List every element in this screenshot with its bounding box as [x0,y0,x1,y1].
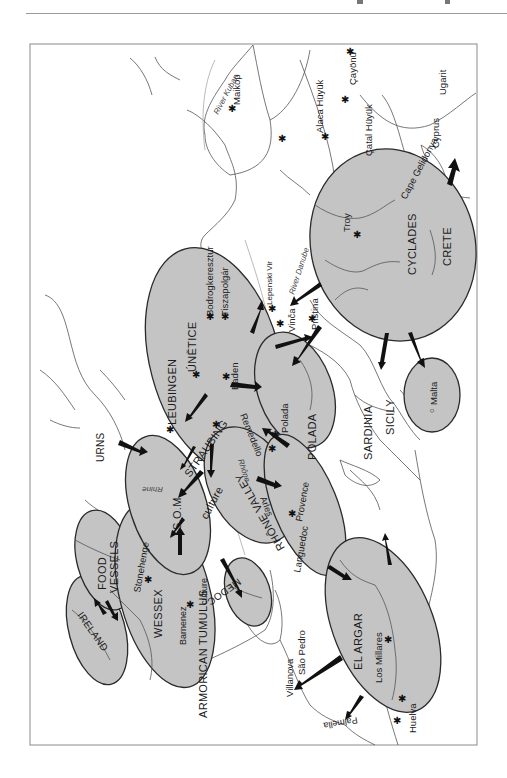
label-rhine: Rhine [142,485,163,494]
label-urns: URNS [95,432,106,462]
label-catal-huyuk: Çatal Hüyük [363,104,374,156]
label-wessex: WESSEX [152,589,164,638]
site-star-remedello: ✱ [268,443,276,454]
site-star-ugarit: ✱ [341,94,349,105]
label-polada-site: Polada [279,403,290,433]
site-star-stonehenge: ✱ [144,574,152,585]
arrow-to-cape-gelidonya [447,158,460,186]
label-armorican-tumulus: ARMORICAN TUMULUS [197,590,209,718]
label-huelva: Huelva [407,703,418,733]
label-crete: CRETE [441,227,453,266]
label-pristina: Pristina [309,298,320,330]
label-cayonu: Çayönü [347,52,358,85]
site-star-troy: ✱ [353,229,361,240]
label-barnenez: Barnenez [178,606,188,645]
label-vinca: Vinča [286,308,297,332]
label-los-millares: Los Millares [373,632,384,683]
label-tiszapolgar: Tiszapolgár [219,267,230,316]
label-alaca-huyuk: Alaca Hüyük [314,79,325,133]
label-som: S.O.M. [171,494,183,530]
site-star-alaca: ✱ [278,133,286,144]
site-star-polada: ✱ [271,429,279,440]
label-troy: Troy [341,213,352,232]
label-sicily: SICILY [384,399,396,435]
label-sao-pedro: São Pedro [296,630,307,675]
site-marker-malta: ○ [430,406,435,415]
label-bodrogkeresztur: Bodrogkeresztur [204,246,215,316]
label-baden: Baden [229,363,240,390]
label-food: FOOD [96,557,108,590]
label-lepenski-vir: Lepenski Vir [265,261,274,305]
site-star-los-millares: ✱ [384,634,392,645]
label-palmella: Palmella [323,715,359,731]
label-el-argar: EL ARGAR [352,613,364,670]
bronze-age-europe-map: ✱ ✱ ✱ ✱ ✱ ✱ ✱ ✱ ✱ ✱ ✱ ✱ ✱ ✱ ✱ ✱ ✱ ✱ ✱ ✱ … [0,0,507,778]
label-cyclades: CYCLADES [406,213,418,275]
label-malta: Malta [428,381,439,405]
label-river-danube: River Danube [287,246,311,296]
site-star-palmella: ✱ [393,715,401,726]
label-polada-zone: POLADA [306,413,318,460]
label-villanova: Villanova [284,658,295,697]
label-unetice: ÚNĚTICE [186,322,198,372]
site-star-huelva: ✱ [398,693,406,704]
label-leubingen: LEUBINGEN [166,359,178,425]
label-ugarit: Ugarit [437,69,448,95]
site-star-vinca: ✱ [276,318,284,329]
label-sardinia: SARDINIA [362,405,374,460]
label-vessels: VESSELS [108,541,120,593]
